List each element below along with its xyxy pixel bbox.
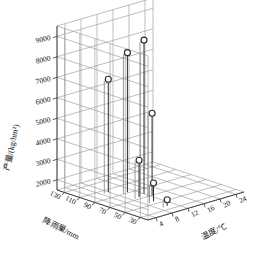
- yield-tick-label: 9000: [35, 33, 52, 45]
- rainfall-tick-label: 30: [127, 215, 138, 227]
- rainfall-tick-label: 50: [112, 210, 123, 222]
- chart-gridlines: [57, 0, 244, 220]
- temperature-tick-label: 20: [221, 198, 232, 210]
- rainfall-tick-label: 70: [97, 205, 108, 217]
- yield-tick-label: 5000: [35, 115, 52, 127]
- yield-tick-label: 8000: [35, 53, 52, 65]
- rainfall-tick-label: 110: [64, 193, 78, 206]
- rainfall-tick-label: 130: [48, 188, 62, 201]
- temperature-tick-label: 24: [237, 194, 248, 206]
- three-d-stem-chart: 2000300040005000600070008000900013011090…: [0, 0, 275, 274]
- point-marker: [105, 76, 111, 82]
- axis-ticklabels: 2000300040005000600070008000900013011090…: [35, 33, 249, 228]
- temperature-tick-label: 8: [173, 214, 181, 224]
- yield-axis-label: 产量/(kg/hm²): [1, 123, 21, 171]
- temperature-tick-label: 12: [189, 208, 200, 220]
- temperature-tick-label: 4: [157, 219, 165, 229]
- yield-tick-label: 3000: [35, 156, 52, 168]
- yield-tick-label: 2000: [35, 176, 52, 188]
- yield-tick-label: 4000: [35, 135, 52, 147]
- rainfall-tick-label: 90: [82, 200, 93, 212]
- yield-tick-label: 7000: [35, 74, 52, 86]
- point-marker: [141, 37, 147, 43]
- yield-tick-label: 6000: [35, 94, 52, 106]
- chart-container: 2000300040005000600070008000900013011090…: [0, 0, 275, 274]
- temperature-tick-label: 16: [205, 203, 216, 215]
- point-marker: [149, 110, 155, 116]
- data-point: [140, 37, 147, 195]
- point-marker: [151, 180, 157, 186]
- rainfall-axis-label: 降雨量/mm: [42, 215, 82, 241]
- point-marker: [164, 197, 170, 203]
- axis-spines: [57, 26, 244, 220]
- point-marker: [124, 50, 130, 56]
- data-point: [163, 197, 170, 208]
- point-marker: [136, 157, 142, 163]
- data-point: [150, 180, 157, 203]
- temperature-axis-label: 温度/℃: [200, 221, 228, 242]
